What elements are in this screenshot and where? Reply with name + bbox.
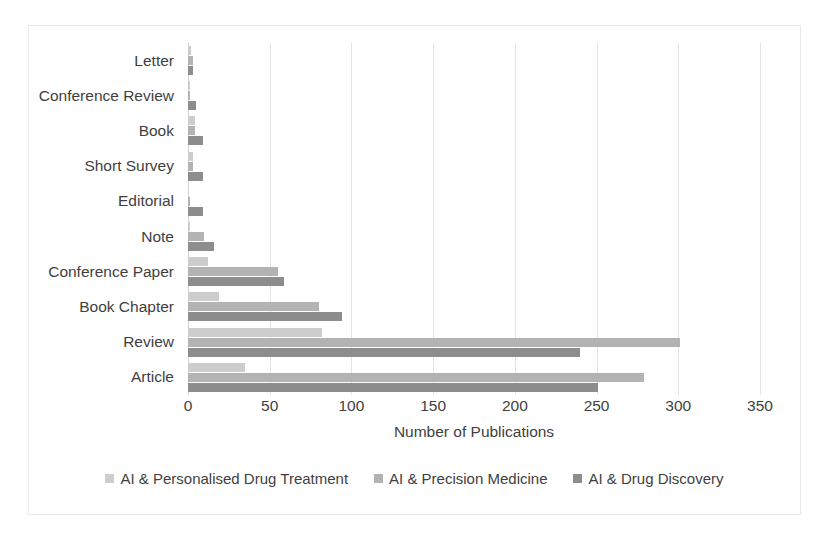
bar-series-layer [188, 43, 760, 395]
bar [188, 116, 195, 125]
bar [188, 373, 644, 382]
bar [188, 302, 319, 311]
bar [188, 328, 322, 337]
y-axis-label-note: Note [141, 229, 174, 245]
bar [188, 383, 598, 392]
x-tick-300: 300 [665, 398, 691, 414]
bar [188, 257, 208, 266]
bar [188, 363, 245, 372]
bar [188, 66, 193, 75]
bar [188, 312, 342, 321]
legend-swatch-icon [573, 474, 582, 483]
bar [188, 152, 193, 161]
bar [188, 222, 190, 231]
bar-group [188, 289, 760, 324]
bar-group [188, 360, 760, 395]
bar-group [188, 149, 760, 184]
bar [188, 338, 680, 347]
x-tick-200: 200 [502, 398, 528, 414]
bar-group [188, 219, 760, 254]
y-axis-label-article: Article [131, 370, 174, 386]
bar [188, 242, 214, 251]
bar [188, 197, 190, 206]
bar [188, 292, 219, 301]
x-tick-100: 100 [338, 398, 364, 414]
bar [188, 162, 193, 171]
bar [188, 81, 190, 90]
bar [188, 56, 193, 65]
bar [188, 46, 191, 55]
publications-by-document-type-bar-chart: ArticleReviewBook ChapterConference Pape… [0, 0, 829, 539]
y-axis-label-review: Review [123, 334, 174, 350]
bar [188, 126, 195, 135]
x-tick-50: 50 [261, 398, 278, 414]
bar [188, 207, 203, 216]
y-axis-label-conference-review: Conference Review [39, 88, 174, 104]
bar-group [188, 113, 760, 148]
x-tick-0: 0 [184, 398, 193, 414]
legend-item[interactable]: AI & Personalised Drug Treatment [105, 470, 348, 487]
chart-legend: AI & Personalised Drug TreatmentAI & Pre… [28, 470, 801, 487]
legend-label: AI & Personalised Drug Treatment [120, 470, 348, 487]
bar [188, 232, 204, 241]
y-axis-label-letter: Letter [134, 53, 174, 69]
x-axis-tick-labels: 050100150200250300350 [188, 398, 760, 422]
bar [188, 348, 580, 357]
y-axis-label-book: Book [139, 123, 174, 139]
y-axis-label-short-survey: Short Survey [84, 158, 174, 174]
legend-swatch-icon [374, 474, 383, 483]
bar [188, 91, 190, 100]
y-axis-label-editorial: Editorial [118, 194, 174, 210]
x-tick-250: 250 [584, 398, 610, 414]
bar-group [188, 43, 760, 78]
bar [188, 136, 203, 145]
legend-swatch-icon [105, 474, 114, 483]
legend-item[interactable]: AI & Drug Discovery [573, 470, 723, 487]
bar [188, 277, 284, 286]
bar [188, 101, 196, 110]
legend-label: AI & Precision Medicine [389, 470, 547, 487]
y-axis-label-book-chapter: Book Chapter [79, 299, 174, 315]
gridline-350 [760, 43, 761, 395]
plot-area [188, 43, 760, 395]
legend-label: AI & Drug Discovery [588, 470, 723, 487]
x-tick-150: 150 [420, 398, 446, 414]
x-axis-title: Number of Publications [188, 423, 760, 441]
bar [188, 267, 278, 276]
bar [188, 172, 203, 181]
y-axis-label-conference-paper: Conference Paper [48, 264, 174, 280]
bar-group [188, 325, 760, 360]
x-tick-350: 350 [747, 398, 773, 414]
y-axis-category-labels: ArticleReviewBook ChapterConference Pape… [0, 43, 182, 395]
bar-group [188, 254, 760, 289]
bar-group [188, 78, 760, 113]
legend-item[interactable]: AI & Precision Medicine [374, 470, 547, 487]
bar-group [188, 184, 760, 219]
